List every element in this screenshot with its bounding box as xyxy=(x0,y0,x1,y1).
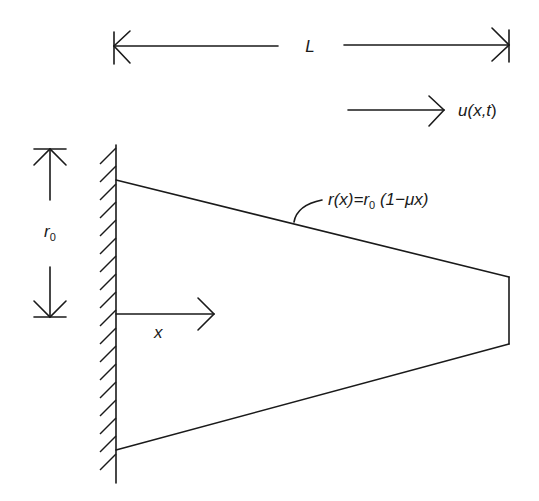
displacement-label: u(x,t) xyxy=(458,101,497,120)
tapered-bar-diagram: L u(x,t) r0 xyxy=(0,0,539,501)
fixed-wall xyxy=(100,145,116,483)
root-radius-label: r0 xyxy=(44,222,56,243)
radius-function-label: r(x)=r0 (1−μx) xyxy=(328,190,428,211)
length-label: L xyxy=(305,37,314,56)
length-dimension: L xyxy=(114,28,509,64)
x-axis-label: x xyxy=(153,323,163,342)
tapered-bar xyxy=(116,180,509,450)
x-axis-arrow: x xyxy=(116,298,214,342)
displacement-arrow: u(x,t) xyxy=(348,96,497,126)
root-radius-dimension: r0 xyxy=(34,149,66,317)
radius-function: r(x)=r0 (1−μx) xyxy=(294,190,428,222)
